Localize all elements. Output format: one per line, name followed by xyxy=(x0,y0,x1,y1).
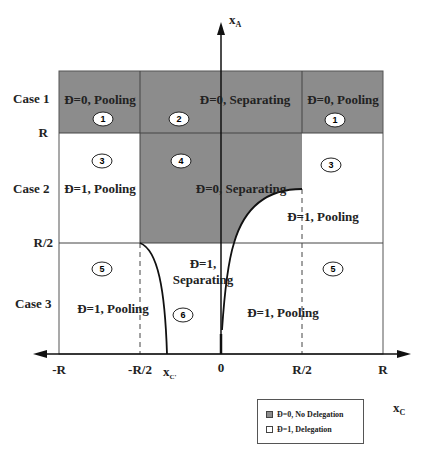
region-5-right-label: Đ=1, Pooling xyxy=(247,305,319,320)
region-6-label-line2: Separating xyxy=(173,272,234,287)
region-number-5-right: 5 xyxy=(323,262,343,276)
case-3-label: Case 3 xyxy=(15,296,52,311)
svg-text:6: 6 xyxy=(180,310,185,320)
region-4-label: Đ=0, Separating xyxy=(196,181,287,196)
region-6-label-line1: Đ=1, xyxy=(190,256,217,271)
x-tick-xc-prime: xC' xyxy=(163,364,177,381)
y-tick-R-half: R/2 xyxy=(34,235,54,250)
region-5-left-label: Đ=1, Pooling xyxy=(77,301,149,316)
legend-item-delegation: Đ=1, Delegation xyxy=(266,425,332,434)
svg-text:2: 2 xyxy=(176,114,181,124)
x-tick-zero: 0 xyxy=(218,360,225,375)
region-3-right-label: Đ=1, Pooling xyxy=(287,209,359,224)
legend-item-no-delegation: Đ=0, No Delegation xyxy=(266,410,344,419)
region-number-3-right: 3 xyxy=(321,158,341,172)
x-tick-R-half: R/2 xyxy=(292,362,312,377)
y-tick-R: R xyxy=(39,125,49,140)
legend: Đ=0, No Delegation Đ=1, Delegation xyxy=(257,399,364,444)
shaded-swatch-icon xyxy=(266,411,273,418)
region-number-1-right: 1 xyxy=(325,113,345,127)
region-number-2: 2 xyxy=(169,112,189,126)
y-axis-arrow-icon xyxy=(217,22,225,35)
region-2-label: Đ=0, Separating xyxy=(200,92,291,107)
region-3-left-label: Đ=1, Pooling xyxy=(64,181,136,196)
region-1-right-label: Đ=0, Pooling xyxy=(307,92,379,107)
x-axis-left-arrow-icon xyxy=(33,350,47,358)
delegation-region-diagram: xA xC -R -R/2 xC' 0 R/2 R R R/2 Case 1 C… xyxy=(0,0,423,460)
region-number-5-left: 5 xyxy=(92,262,112,276)
region-number-3-left: 3 xyxy=(92,154,112,168)
case-2-label: Case 2 xyxy=(13,181,49,196)
svg-text:5: 5 xyxy=(330,264,335,274)
svg-text:3: 3 xyxy=(328,160,333,170)
x-tick-R: R xyxy=(378,362,388,377)
svg-text:4: 4 xyxy=(178,156,183,166)
x-axis-label: xC xyxy=(393,400,406,417)
case-1-label: Case 1 xyxy=(13,91,49,106)
y-axis-label: xA xyxy=(229,12,242,29)
x-tick-neg-R: -R xyxy=(52,362,66,377)
svg-text:1: 1 xyxy=(100,114,105,124)
region-number-1-left: 1 xyxy=(93,112,113,126)
svg-text:1: 1 xyxy=(332,115,337,125)
region-number-6: 6 xyxy=(173,308,193,322)
svg-text:5: 5 xyxy=(99,264,104,274)
region-number-4: 4 xyxy=(171,154,191,168)
unshaded-swatch-icon xyxy=(266,426,273,433)
region-1-left-label: Đ=0, Pooling xyxy=(64,92,136,107)
x-axis-right-arrow-icon xyxy=(397,350,411,358)
svg-text:3: 3 xyxy=(99,156,104,166)
x-tick-neg-R-half: -R/2 xyxy=(128,362,152,377)
boundary-curve-left xyxy=(140,243,167,354)
